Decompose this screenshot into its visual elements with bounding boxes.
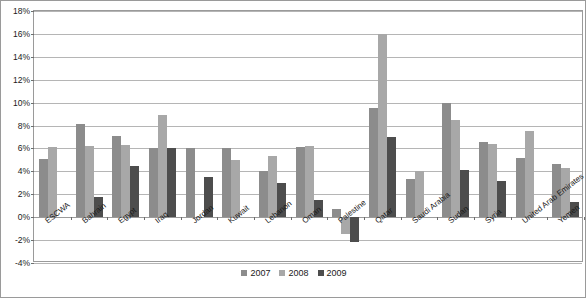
bar-iraq-2008 (158, 115, 167, 217)
plot-area: 18%16%14%12%10%8%6%4%2%0%-2%-4% (33, 10, 583, 262)
chart-container: 18%16%14%12%10%8%6%4%2%0%-2%-4% ESCWABah… (0, 0, 588, 300)
bar-egypt-2008 (121, 145, 130, 217)
bar-escwa-2008 (48, 147, 57, 217)
category-tick (181, 217, 182, 220)
bar-syria-2007 (479, 142, 488, 218)
bar-palestine-2009 (350, 217, 359, 242)
category-tick (71, 217, 72, 220)
bar-iraq-2009 (167, 148, 176, 217)
y-axis-label-12%: 12% (13, 75, 30, 84)
y-axis-label-8%: 8% (18, 121, 30, 130)
bar-united-arab-emirates-2007 (516, 158, 525, 218)
y-axis-label-6%: 6% (18, 144, 30, 153)
bar-bahrain-2008 (85, 146, 94, 217)
category-tick (437, 217, 438, 220)
y-axis-label--4%: -4% (15, 259, 30, 268)
bar-oman-2008 (305, 146, 314, 217)
legend-swatch-2009 (318, 270, 324, 276)
y-axis-tick-mark (31, 263, 34, 264)
category-tick (327, 217, 328, 220)
y-axis-label-2%: 2% (18, 190, 30, 199)
legend-item-2009[interactable]: 2009 (318, 268, 347, 278)
y-axis-label-10%: 10% (13, 98, 30, 107)
category-tick (364, 217, 365, 220)
bar-qatar-2008 (378, 34, 387, 217)
bar-oman-2007 (296, 147, 305, 217)
y-axis-label--2%: -2% (15, 236, 30, 245)
bar-sudan-2008 (451, 120, 460, 217)
category-tick (291, 217, 292, 220)
category-tick (217, 217, 218, 220)
category-tick (144, 217, 145, 220)
y-axis-label-14%: 14% (13, 53, 30, 62)
category-tick (474, 217, 475, 220)
bar-united-arab-emirates-2008 (525, 131, 534, 217)
category-tick (401, 217, 402, 220)
y-axis-label-0%: 0% (18, 213, 30, 222)
category-tick (547, 217, 548, 220)
legend-swatch-2008 (279, 270, 285, 276)
legend-label-2008: 2008 (288, 268, 308, 278)
category-tick (584, 217, 585, 220)
bar-qatar-2007 (369, 108, 378, 217)
legend-item-2007[interactable]: 2007 (241, 268, 270, 278)
bar-saudi-arabia-2007 (406, 179, 415, 217)
y-axis-label-18%: 18% (13, 7, 30, 16)
legend-swatch-2007 (241, 270, 247, 276)
legend-label-2009: 2009 (327, 268, 347, 278)
y-axis-label-16%: 16% (13, 30, 30, 39)
category-tick (107, 217, 108, 220)
bar-kuwait-2007 (222, 148, 231, 217)
bar-lebanon-2007 (259, 171, 268, 217)
bar-bahrain-2007 (76, 124, 85, 217)
bar-egypt-2007 (112, 136, 121, 217)
bar-iraq-2007 (149, 148, 158, 217)
bar-syria-2008 (488, 144, 497, 217)
y-axis-label-4%: 4% (18, 167, 30, 176)
chart-legend: 200720082009 (0, 268, 588, 278)
gridline--4% (34, 263, 582, 264)
category-tick (254, 217, 255, 220)
bar-jordan-2007 (186, 148, 195, 217)
bar-escwa-2007 (39, 159, 48, 217)
category-tick (511, 217, 512, 220)
legend-label-2007: 2007 (250, 268, 270, 278)
legend-item-2008[interactable]: 2008 (279, 268, 308, 278)
